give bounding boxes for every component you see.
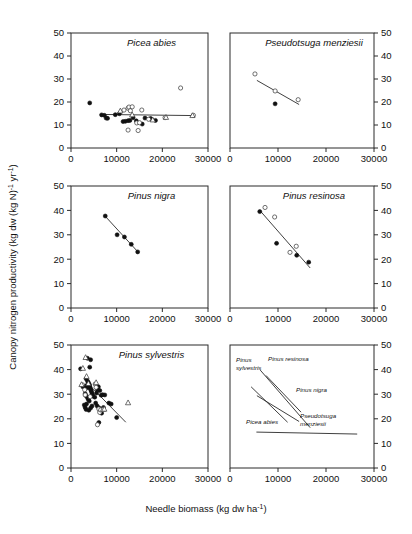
xtick-label-picea-abies-20000: 20000 xyxy=(149,153,175,164)
ytick-label-pinus-sylvestris-30: 30 xyxy=(53,389,64,400)
marker-filled-circle xyxy=(295,253,299,257)
fit-line-pinus-nigra xyxy=(105,216,138,252)
marker-filled-circle xyxy=(113,113,117,117)
ytick-label-summary-lines-0: 0 xyxy=(381,462,386,473)
fit-line-pseudotsuga-menziesii xyxy=(257,80,299,104)
x-axis-title-sup: -1 xyxy=(257,503,263,510)
ytick-label-summary-lines-50: 50 xyxy=(381,339,392,350)
xtick-label-pinus-sylvestris-20000: 20000 xyxy=(149,473,175,484)
xtick-label-summary-lines-10000: 10000 xyxy=(265,473,291,484)
ytick-label-pseudotsuga-menziesii-20: 20 xyxy=(381,96,392,107)
scatter-panel-figure: 010203040500100002000030000Picea abies01… xyxy=(0,0,412,534)
ytick-label-pinus-nigra-10: 10 xyxy=(53,278,64,289)
y-axis-title-sup1: -1 xyxy=(7,184,14,190)
xtick-label-pseudotsuga-menziesii-20000: 20000 xyxy=(313,153,339,164)
ytick-label-pinus-sylvestris-50: 50 xyxy=(53,339,64,350)
ytick-label-picea-abies-0: 0 xyxy=(59,142,64,153)
ytick-label-pinus-resinosa-20: 20 xyxy=(381,254,392,265)
xtick-label-picea-abies-10000: 10000 xyxy=(103,153,129,164)
panel-picea-abies: 010203040500100002000030000Picea abies xyxy=(53,27,221,164)
marker-open-circle xyxy=(83,388,87,392)
xtick-label-pinus-sylvestris-10000: 10000 xyxy=(103,473,129,484)
marker-filled-circle xyxy=(88,101,92,105)
panel-pinus-nigra: 010203040500100002000030000Pinus nigra xyxy=(53,180,221,324)
ytick-label-summary-lines-30: 30 xyxy=(381,389,392,400)
xtick-label-pinus-resinosa-0: 0 xyxy=(227,313,232,324)
marker-open-circle xyxy=(130,105,134,109)
marker-open-circle xyxy=(273,89,277,93)
xtick-label-pinus-resinosa-30000: 30000 xyxy=(361,313,387,324)
marker-filled-circle xyxy=(98,389,102,393)
ann-picea-abies-line1: Picea abies xyxy=(246,418,278,425)
xtick-label-pseudotsuga-menziesii-10000: 10000 xyxy=(265,153,291,164)
marker-filled-circle xyxy=(103,393,107,397)
ytick-label-picea-abies-10: 10 xyxy=(53,119,64,130)
marker-open-circle xyxy=(136,128,140,132)
ytick-label-summary-lines-20: 20 xyxy=(381,413,392,424)
ann-pinus-sylvestris-line1: Pinus xyxy=(236,356,251,363)
ytick-label-summary-lines-10: 10 xyxy=(381,438,392,449)
marker-filled-circle xyxy=(93,395,97,399)
ann-pinus-resinosa-line1: Pinus resinosa xyxy=(268,355,309,362)
ytick-label-picea-abies-30: 30 xyxy=(53,73,64,84)
marker-open-circle xyxy=(95,423,99,427)
ytick-label-pinus-resinosa-50: 50 xyxy=(381,180,392,191)
panel-frame-pseudotsuga-menziesii xyxy=(230,33,374,148)
panel-title-pinus-sylvestris: Pinus sylvestris xyxy=(119,349,185,360)
marker-open-circle xyxy=(253,72,257,76)
xtick-label-picea-abies-30000: 30000 xyxy=(195,153,221,164)
xtick-label-pinus-resinosa-20000: 20000 xyxy=(313,313,339,324)
marker-filled-circle xyxy=(115,416,119,420)
ytick-label-pseudotsuga-menziesii-0: 0 xyxy=(381,142,386,153)
marker-filled-circle xyxy=(129,242,133,246)
panel-frame-pinus-nigra xyxy=(71,186,208,308)
marker-open-circle xyxy=(88,395,92,399)
ytick-label-picea-abies-20: 20 xyxy=(53,96,64,107)
ytick-label-pseudotsuga-menziesii-30: 30 xyxy=(381,73,392,84)
marker-open-circle xyxy=(273,215,277,219)
panel-pinus-resinosa: 010203040500100002000030000Pinus resinos… xyxy=(227,180,391,324)
panel-title-pseudotsuga-menziesii: Pseudotsuga menziesii xyxy=(265,37,364,48)
marker-filled-circle xyxy=(275,241,279,245)
ytick-label-pseudotsuga-menziesii-50: 50 xyxy=(381,27,392,38)
marker-filled-circle xyxy=(115,233,119,237)
marker-filled-circle xyxy=(103,214,107,218)
ytick-label-picea-abies-50: 50 xyxy=(53,27,64,38)
ytick-label-pinus-sylvestris-10: 10 xyxy=(53,438,64,449)
ytick-label-picea-abies-40: 40 xyxy=(53,50,64,61)
ytick-label-pseudotsuga-menziesii-10: 10 xyxy=(381,119,392,130)
x-axis-title: Needle biomass (kg dw ha-1) xyxy=(145,503,266,515)
ytick-label-pinus-sylvestris-40: 40 xyxy=(53,364,64,375)
ytick-label-pinus-nigra-30: 30 xyxy=(53,229,64,240)
marker-open-triangle xyxy=(84,374,89,379)
xtick-label-pinus-nigra-10000: 10000 xyxy=(103,313,129,324)
marker-open-circle xyxy=(179,86,183,90)
xtick-label-pseudotsuga-menziesii-0: 0 xyxy=(227,153,232,164)
marker-filled-circle xyxy=(109,402,113,406)
marker-open-circle xyxy=(126,128,130,132)
ytick-label-pinus-resinosa-0: 0 xyxy=(381,302,386,313)
marker-filled-circle xyxy=(258,210,262,214)
ytick-label-pinus-nigra-0: 0 xyxy=(59,302,64,313)
y-axis-title-sup2: -1 xyxy=(7,167,14,173)
marker-filled-circle xyxy=(273,102,277,106)
marker-filled-circle xyxy=(90,404,94,408)
series-pseudotsuga-menziesii-filled-circle xyxy=(273,102,277,106)
marker-open-circle xyxy=(137,121,141,125)
ann-pinus-nigra-line1: Pinus nigra xyxy=(296,386,328,393)
series-pinus-resinosa-open-circle xyxy=(263,205,298,254)
ytick-label-pinus-nigra-40: 40 xyxy=(53,205,64,216)
ann-pseudotsuga-menziesii-line1: Pseudotsuga xyxy=(300,412,337,419)
ytick-label-pinus-resinosa-40: 40 xyxy=(381,205,392,216)
ytick-label-pinus-sylvestris-0: 0 xyxy=(59,462,64,473)
ytick-label-pinus-resinosa-10: 10 xyxy=(381,278,392,289)
marker-filled-circle xyxy=(106,116,110,120)
panel-frame-pinus-resinosa xyxy=(230,186,374,308)
marker-open-circle xyxy=(288,250,292,254)
xtick-label-summary-lines-20000: 20000 xyxy=(313,473,339,484)
ytick-label-summary-lines-40: 40 xyxy=(381,364,392,375)
marker-filled-circle xyxy=(88,365,92,369)
marker-filled-circle xyxy=(136,250,140,254)
series-picea-abies-filled-circle xyxy=(88,101,158,126)
marker-open-circle xyxy=(294,244,298,248)
